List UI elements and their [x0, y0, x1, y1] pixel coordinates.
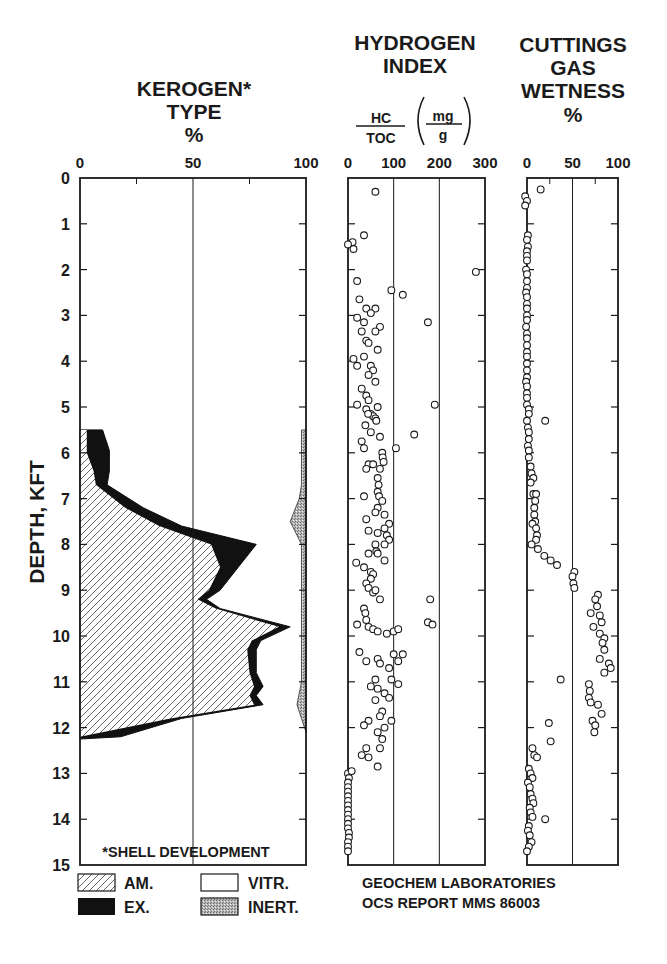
- data-point: [383, 630, 390, 637]
- data-point: [363, 516, 370, 523]
- data-point: [373, 417, 380, 424]
- data-point: [372, 188, 379, 195]
- data-point: [367, 310, 374, 317]
- data-point: [354, 362, 361, 369]
- data-point: [361, 493, 368, 500]
- data-point: [374, 628, 381, 635]
- shell-development-note: *SHELL DEVELOPMENT: [102, 844, 269, 860]
- data-point: [372, 541, 379, 548]
- data-point: [374, 530, 381, 537]
- footer-line-1: GEOCHEM LABORATORIES: [362, 875, 556, 891]
- data-point: [362, 422, 369, 429]
- data-point: [367, 429, 374, 436]
- x-tick-label: 0: [76, 154, 84, 171]
- depth-tick-label: 5: [61, 399, 70, 416]
- data-point: [425, 319, 432, 326]
- data-point: [601, 646, 608, 653]
- data-point: [524, 271, 531, 278]
- data-point: [525, 410, 532, 417]
- x-tick-label: 0: [344, 154, 352, 171]
- data-point: [390, 651, 397, 658]
- depth-tick-label: 4: [61, 353, 70, 370]
- hi-denominator: TOC: [366, 130, 395, 146]
- inertinite-area: [290, 430, 306, 732]
- data-point: [377, 745, 384, 752]
- depth-tick-label: 6: [61, 445, 70, 462]
- depth-tick-label: 11: [53, 674, 70, 691]
- data-point: [587, 699, 594, 706]
- data-point: [522, 202, 529, 209]
- stipple-swatch-icon: [201, 898, 238, 915]
- data-point: [365, 410, 372, 417]
- data-point: [587, 610, 594, 617]
- data-point: [541, 552, 548, 559]
- data-point: [598, 619, 605, 626]
- data-point: [354, 278, 361, 285]
- hi-unit-numerator: mg: [433, 108, 454, 124]
- data-point: [528, 541, 535, 548]
- data-point: [529, 814, 536, 821]
- data-point: [524, 394, 531, 401]
- kerogen-title-line-1: KEROGEN*: [137, 77, 252, 100]
- data-point: [411, 431, 418, 438]
- gw-title-line-4: %: [564, 103, 583, 126]
- data-point: [399, 651, 406, 658]
- data-point: [388, 676, 395, 683]
- kerogen-panel: 050100: [76, 154, 319, 865]
- data-point: [529, 745, 536, 752]
- data-point: [358, 385, 365, 392]
- data-point: [596, 656, 603, 663]
- amorphous-area: [80, 430, 279, 737]
- depth-tick-label: 0: [61, 170, 70, 187]
- black-swatch-icon: [78, 898, 115, 915]
- data-point: [524, 417, 531, 424]
- kerogen-title-line-3: %: [185, 123, 204, 146]
- data-point: [375, 481, 382, 488]
- data-point: [534, 754, 541, 761]
- data-point: [524, 335, 531, 342]
- data-point: [525, 436, 532, 443]
- data-point: [596, 612, 603, 619]
- data-point: [547, 557, 554, 564]
- hi-title-line-1: HYDROGEN: [354, 31, 475, 54]
- data-point: [381, 525, 388, 532]
- data-point: [585, 681, 592, 688]
- data-point: [356, 296, 363, 303]
- data-point: [372, 378, 379, 385]
- data-point: [525, 429, 532, 436]
- data-point: [354, 401, 361, 408]
- data-point: [381, 724, 388, 731]
- data-point: [472, 268, 479, 275]
- data-point: [533, 491, 540, 498]
- data-point: [571, 585, 578, 592]
- data-point: [524, 278, 531, 285]
- data-point: [542, 816, 549, 823]
- data-point: [361, 564, 368, 571]
- data-point: [524, 383, 531, 390]
- data-point: [377, 465, 384, 472]
- gas-wetness-title: CUTTINGS GAS WETNESS %: [519, 33, 626, 126]
- data-point: [365, 339, 372, 346]
- data-point: [524, 342, 531, 349]
- data-point: [354, 621, 361, 628]
- data-point: [362, 610, 369, 617]
- data-point: [361, 232, 368, 239]
- data-point: [542, 417, 549, 424]
- data-point: [374, 404, 381, 411]
- data-point: [363, 465, 370, 472]
- data-point: [361, 722, 368, 729]
- data-point: [370, 461, 377, 468]
- data-point: [381, 557, 388, 564]
- data-point: [374, 475, 381, 482]
- data-point: [367, 683, 374, 690]
- data-point: [361, 445, 368, 452]
- data-point: [395, 658, 402, 665]
- data-point: [372, 676, 379, 683]
- data-point: [372, 587, 379, 594]
- data-point: [595, 701, 602, 708]
- x-tick-label: 100: [381, 154, 406, 171]
- data-point: [525, 447, 532, 454]
- data-point: [525, 454, 532, 461]
- data-point: [524, 294, 531, 301]
- data-point: [531, 504, 538, 511]
